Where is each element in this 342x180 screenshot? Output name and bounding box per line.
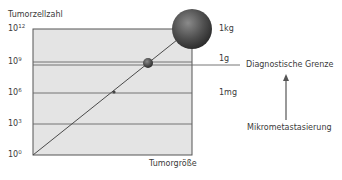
y-tick-1e3: 103 (8, 119, 22, 128)
chart-canvas (0, 0, 342, 180)
y-tick-1e12: 1012 (8, 24, 25, 33)
y-tick-1e6: 106 (8, 88, 22, 97)
weight-label-1kg: 1kg (219, 24, 234, 33)
tumor-ball-1g (143, 58, 153, 68)
tumor-dot-1mg (112, 90, 115, 93)
x-axis-title: Tumorgröße (149, 159, 197, 168)
weight-label-1mg: 1mg (219, 88, 237, 97)
y-tick-1e0: 100 (8, 150, 22, 159)
y-tick-1e9: 109 (8, 57, 22, 66)
arrow-up-icon (283, 74, 289, 81)
y-axis-title: Tumorzellzahl (8, 10, 63, 19)
micrometastasis-label: Mikrometastasierung (247, 123, 332, 132)
diagnostic-limit-label: Diagnostische Grenze (246, 60, 333, 69)
tumor-ball-1kg (172, 9, 212, 49)
weight-label-1g: 1g (219, 54, 229, 63)
